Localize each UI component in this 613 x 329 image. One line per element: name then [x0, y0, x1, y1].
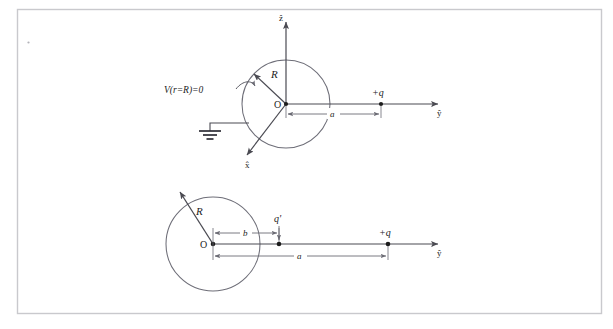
image-charge-label: q' — [274, 213, 282, 224]
y-axis-label-top: ŷ — [437, 108, 442, 118]
page-frame — [18, 10, 602, 314]
scan-speck — [27, 41, 29, 43]
image-charge-marker — [277, 242, 282, 247]
radius-label-top: R — [270, 68, 278, 80]
dimension-a-top: a — [286, 106, 381, 119]
charge-marker-bottom — [386, 242, 391, 247]
charge-marker-top — [379, 102, 383, 106]
charge-label-bottom: +q — [379, 227, 391, 238]
x-axis-label: x̂ — [245, 160, 250, 170]
origin-label-top: O — [274, 99, 281, 110]
y-axis-label-bottom: ŷ — [437, 248, 442, 258]
origin-label-bottom: O — [200, 239, 207, 250]
boundary-condition-label: V(r=R)=0 — [164, 85, 203, 96]
dimension-a-bottom: a — [213, 246, 388, 261]
dimension-b-label: b — [243, 228, 248, 238]
dimension-b: b — [213, 227, 279, 246]
z-axis-label: ẑ — [279, 13, 283, 23]
charge-label-top: +q — [372, 87, 384, 98]
dimension-a-label-bottom: a — [297, 251, 302, 261]
ground-lead-wire — [210, 123, 249, 131]
panel-bottom-group: ŷ R O q' +q b — [166, 192, 442, 291]
figure-root: ẑ ŷ x̂ R O V(r=R)=0 — [0, 0, 613, 329]
physics-diagram-canvas: ẑ ŷ x̂ R O V(r=R)=0 — [0, 0, 613, 329]
origin-marker-top — [284, 102, 288, 106]
dimension-a-label-top: a — [330, 109, 335, 119]
panel-top-group: ẑ ŷ x̂ R O V(r=R)=0 — [164, 13, 442, 170]
radius-label-bottom: R — [195, 205, 203, 217]
ground-symbol — [199, 123, 249, 139]
